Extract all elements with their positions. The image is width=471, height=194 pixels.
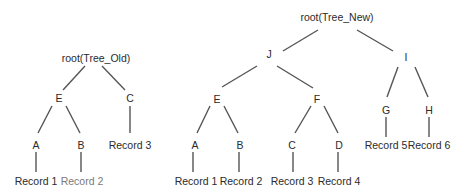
tree-node: A: [32, 140, 39, 151]
tree-node: D: [335, 140, 343, 151]
tree-node: F: [314, 94, 320, 105]
tree-edge: [222, 66, 257, 87]
record-node: Record 3: [109, 140, 152, 151]
tree-edge: [283, 30, 318, 51]
record-node: Record 1: [15, 176, 58, 187]
tree-edge: [277, 66, 313, 88]
tree-edge: [38, 106, 52, 133]
tree-node: I: [405, 52, 408, 63]
tree-root-node: root(Tree_Old): [62, 53, 130, 64]
tree-edge: [324, 106, 338, 133]
tree-edge: [66, 106, 80, 133]
tree-edge: [197, 106, 210, 133]
tree-edge: [224, 106, 238, 133]
tree-edge: [387, 67, 398, 97]
tree-root-node: root(Tree_New): [300, 12, 373, 23]
tree-diagram-canvas: root(Tree_Old)ECABRecord 3Record 1Record…: [0, 0, 471, 194]
tree-node: C: [288, 140, 296, 151]
tree-node: A: [191, 140, 198, 151]
tree-edges: [0, 0, 471, 194]
record-node: Record 2: [220, 176, 263, 187]
tree-node: C: [126, 93, 134, 104]
tree-node: J: [266, 49, 271, 60]
tree-node: B: [77, 140, 84, 151]
tree-node: G: [382, 105, 390, 116]
tree-node: H: [425, 105, 433, 116]
tree-node: B: [236, 140, 243, 151]
tree-node: E: [55, 93, 62, 104]
tree-edge: [295, 106, 311, 133]
record-node: Record 5: [365, 140, 408, 151]
record-node: Record 2: [61, 176, 104, 187]
tree-edge: [415, 67, 428, 97]
record-node: Record 3: [271, 176, 314, 187]
tree-edge: [102, 66, 125, 90]
tree-node: E: [213, 94, 220, 105]
record-node: Record 6: [408, 140, 451, 151]
record-node: Record 4: [318, 176, 361, 187]
tree-edge: [63, 66, 85, 90]
tree-edge: [357, 30, 393, 51]
record-node: Record 1: [175, 176, 218, 187]
